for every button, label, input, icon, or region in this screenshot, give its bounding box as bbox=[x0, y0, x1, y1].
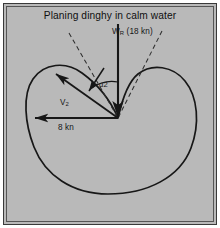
velocity-subscript: 2 bbox=[66, 101, 69, 107]
velocity-vector bbox=[56, 74, 118, 118]
polar-diagram-canvas bbox=[0, 0, 220, 228]
apparent-wind-value: (18 kn) bbox=[124, 27, 153, 36]
dashed-reference-right bbox=[118, 31, 162, 118]
page-title: Planing dinghy in calm water bbox=[0, 11, 220, 21]
apparent-wind-symbol: W bbox=[112, 27, 120, 36]
apparent-wind-label: WR (18 kn) bbox=[112, 28, 153, 37]
polar-curve bbox=[26, 65, 197, 194]
velocity-label: V2 bbox=[60, 99, 69, 108]
angle-label: α2 bbox=[99, 81, 108, 89]
boat-speed-label: 8 kn bbox=[58, 124, 74, 132]
figure-container: Planing dinghy in calm water WR (18 kn) … bbox=[0, 0, 220, 228]
